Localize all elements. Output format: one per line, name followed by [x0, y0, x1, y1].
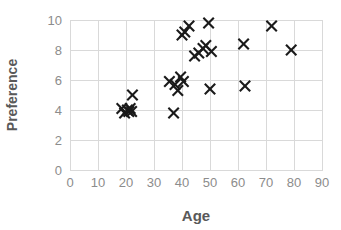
y-axis-title: Preference: [4, 59, 20, 132]
y-tick-label: 2: [55, 133, 62, 148]
x-axis-title: Age: [182, 207, 210, 224]
data-point-marker: [127, 90, 137, 100]
x-tick-label: 90: [315, 175, 329, 190]
y-tick-label: 8: [55, 43, 62, 58]
y-axis-tick-labels: 0246810: [48, 13, 62, 178]
y-tick-label: 10: [48, 13, 62, 28]
data-point-marker: [240, 81, 250, 91]
y-tick-label: 4: [55, 103, 62, 118]
data-point-marker: [203, 18, 213, 28]
chart-canvas: 0102030405060708090 0246810 Age Preferen…: [0, 0, 341, 230]
data-points-group: [117, 18, 297, 118]
gridlines-group: [70, 20, 323, 171]
data-point-marker: [206, 46, 216, 56]
x-tick-label: 60: [231, 175, 245, 190]
y-tick-label: 6: [55, 73, 62, 88]
x-tick-label: 10: [91, 175, 105, 190]
data-point-marker: [238, 39, 248, 49]
x-tick-label: 50: [203, 175, 217, 190]
x-axis-tick-labels: 0102030405060708090: [66, 175, 329, 190]
plot-area-border: [71, 21, 323, 171]
data-point-marker: [184, 21, 194, 31]
data-point-marker: [180, 27, 190, 37]
x-tick-label: 20: [119, 175, 133, 190]
x-tick-label: 80: [287, 175, 301, 190]
data-point-marker: [266, 21, 276, 31]
x-tick-label: 70: [259, 175, 273, 190]
x-tick-label: 0: [66, 175, 73, 190]
y-tick-label: 0: [55, 163, 62, 178]
data-point-marker: [178, 76, 188, 86]
data-point-marker: [168, 108, 178, 118]
x-tick-label: 40: [175, 175, 189, 190]
x-tick-label: 30: [147, 175, 161, 190]
scatter-chart: 0102030405060708090 0246810 Age Preferen…: [0, 0, 341, 230]
